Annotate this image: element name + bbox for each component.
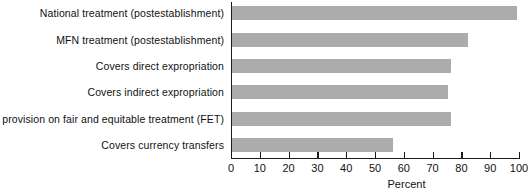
x-axis-tick-label: 90 (484, 162, 496, 175)
x-axis-tick-label: 100 (510, 162, 528, 175)
x-axis-tick (346, 152, 347, 158)
x-axis-tick (231, 152, 232, 158)
x-axis-tick (375, 152, 376, 158)
x-axis-line (231, 158, 520, 159)
bar (232, 33, 468, 47)
x-axis-tick-label: 10 (254, 162, 266, 175)
x-axis-tick-label: 80 (455, 162, 467, 175)
plot-area (231, 0, 521, 158)
x-axis-tick (260, 152, 261, 158)
x-axis-tick-label: 30 (311, 162, 323, 175)
category-label: National treatment (postestablishment) (40, 7, 224, 19)
x-axis-tick-label: 50 (369, 162, 381, 175)
x-axis-tick (404, 152, 405, 158)
bar (232, 138, 393, 152)
x-axis-tick (433, 152, 434, 158)
x-axis-tick-label: 20 (282, 162, 294, 175)
x-axis-tick-label: 60 (398, 162, 410, 175)
category-label: Covers indirect expropriation (87, 86, 224, 98)
category-labels: National treatment (postestablishment)MF… (0, 0, 228, 158)
bar (232, 6, 517, 20)
x-axis-tick (289, 152, 290, 158)
x-axis-tick (490, 152, 491, 158)
x-axis-tick (317, 152, 318, 158)
category-label: MFN treatment (postestablishment) (56, 34, 224, 46)
category-label: Covers currency transfers (101, 139, 224, 151)
x-axis-tick-label: 40 (340, 162, 352, 175)
bar (232, 85, 448, 99)
x-axis-title: Percent (0, 178, 527, 190)
category-label: Includes provision on fair and equitable… (0, 113, 224, 125)
y-axis-line (231, 2, 232, 158)
x-axis-title-text: Percent (388, 178, 426, 190)
bar (232, 112, 451, 126)
bar (232, 59, 451, 73)
x-axis-tick (519, 152, 520, 158)
x-axis-tick-label: 70 (426, 162, 438, 175)
x-axis-tick (461, 152, 462, 158)
category-label: Covers direct expropriation (96, 60, 224, 72)
x-axis-tick-label: 0 (228, 162, 234, 175)
